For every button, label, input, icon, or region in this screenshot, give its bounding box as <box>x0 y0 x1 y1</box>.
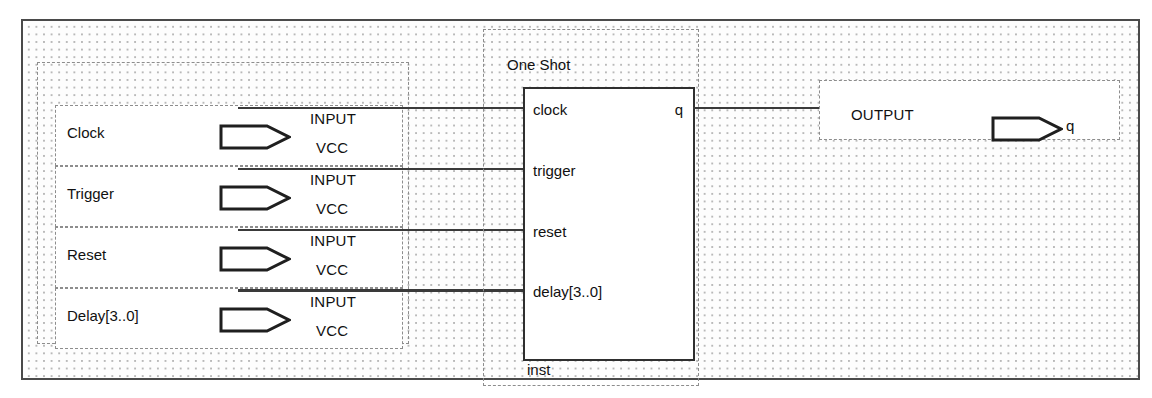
input-row-trigger[interactable]: Trigger INPUT VCC <box>55 166 403 227</box>
input-pin-icon[interactable] <box>219 307 291 333</box>
input-row-reset[interactable]: Reset INPUT VCC <box>55 227 403 288</box>
oneshot-instance-label: inst <box>527 361 550 378</box>
input-label-clock: Clock <box>67 124 105 141</box>
input-label-trigger: Trigger <box>67 185 114 202</box>
input-row-delay[interactable]: Delay[3..0] INPUT VCC <box>55 288 403 349</box>
schematic-frame: Clock INPUT VCC Trigger INPUT VCC <box>21 19 1140 380</box>
port-delay: delay[3..0] <box>533 283 602 300</box>
input-label-reset: Reset <box>67 246 106 263</box>
port-clock: clock <box>533 101 567 118</box>
input-type-label: INPUT <box>310 171 356 188</box>
output-type-label: OUTPUT <box>851 106 914 123</box>
input-label-delay: Delay[3..0] <box>67 307 139 324</box>
input-type-label: INPUT <box>310 110 356 127</box>
input-vcc-label: VCC <box>316 261 348 278</box>
input-pin-icon[interactable] <box>219 185 291 211</box>
output-signal-name: q <box>1066 117 1074 134</box>
wire-reset[interactable] <box>238 229 524 231</box>
input-pin-group[interactable]: Clock INPUT VCC Trigger INPUT VCC <box>37 62 409 344</box>
input-pin-icon[interactable] <box>219 246 291 272</box>
oneshot-title: One Shot <box>507 56 570 73</box>
input-vcc-label: VCC <box>316 322 348 339</box>
input-vcc-label: VCC <box>316 200 348 217</box>
output-pin-icon[interactable] <box>991 116 1063 142</box>
input-pin-icon[interactable] <box>219 124 291 150</box>
port-q: q <box>675 101 683 118</box>
oneshot-block[interactable]: clock trigger reset delay[3..0] q <box>523 87 695 361</box>
input-type-label: INPUT <box>310 293 356 310</box>
input-row-clock[interactable]: Clock INPUT VCC <box>55 105 403 166</box>
wire-trigger[interactable] <box>238 168 524 170</box>
port-trigger: trigger <box>533 162 576 179</box>
input-type-label: INPUT <box>310 232 356 249</box>
wire-clock[interactable] <box>238 107 524 109</box>
input-vcc-label: VCC <box>316 139 348 156</box>
wire-delay-bus[interactable] <box>238 289 524 292</box>
port-reset: reset <box>533 223 566 240</box>
schematic-canvas: Clock INPUT VCC Trigger INPUT VCC <box>0 0 1152 398</box>
